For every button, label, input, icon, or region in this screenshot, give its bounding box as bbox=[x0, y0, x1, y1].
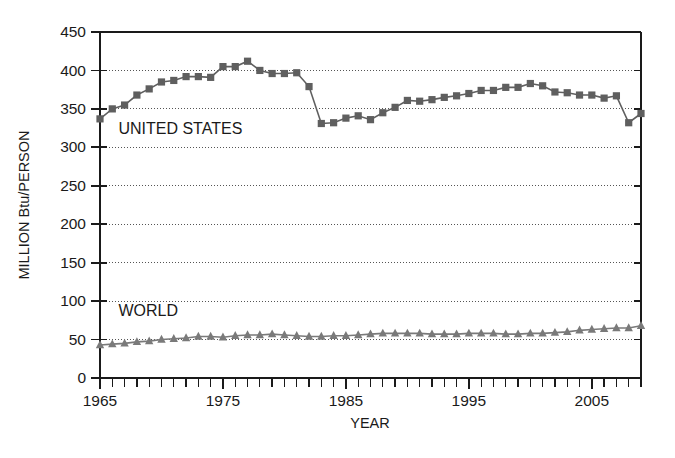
data-point-marker bbox=[478, 87, 485, 94]
y-axis-title: MILLION Btu/PERSON bbox=[16, 130, 32, 279]
data-point-marker bbox=[182, 73, 189, 80]
y-tick-label: 300 bbox=[60, 138, 86, 155]
data-point-marker bbox=[244, 58, 251, 65]
data-point-marker bbox=[133, 91, 140, 98]
y-tick-label: 200 bbox=[60, 215, 86, 232]
x-tick-label: 1995 bbox=[452, 392, 486, 409]
series-united-states bbox=[96, 58, 644, 127]
data-point-marker bbox=[539, 82, 546, 89]
data-point-marker bbox=[502, 84, 509, 91]
x-axis-ticks: 19651975198519952005 bbox=[83, 378, 641, 409]
data-point-marker bbox=[637, 110, 644, 117]
plot-frame bbox=[100, 32, 641, 378]
data-point-marker bbox=[318, 120, 325, 127]
data-point-marker bbox=[551, 88, 558, 95]
data-point-marker bbox=[527, 80, 534, 87]
energy-per-person-line-chart: 050100150200250300350400450 196519751985… bbox=[0, 0, 675, 458]
data-point-marker bbox=[564, 89, 571, 96]
data-point-marker bbox=[404, 97, 411, 104]
data-point-marker bbox=[96, 115, 103, 122]
y-tick-label: 50 bbox=[69, 331, 87, 348]
data-point-marker bbox=[428, 96, 435, 103]
data-point-marker bbox=[281, 70, 288, 77]
data-point-marker bbox=[613, 92, 620, 99]
x-axis-title: YEAR bbox=[350, 415, 390, 431]
data-point-marker bbox=[195, 73, 202, 80]
x-tick-label: 1975 bbox=[206, 392, 240, 409]
data-point-marker bbox=[330, 119, 337, 126]
data-point-marker bbox=[219, 63, 226, 70]
data-point-marker bbox=[576, 91, 583, 98]
data-point-marker bbox=[269, 70, 276, 77]
data-point-marker bbox=[232, 63, 239, 70]
data-point-marker bbox=[305, 83, 312, 90]
chart-figure: 050100150200250300350400450 196519751985… bbox=[0, 0, 675, 458]
data-point-marker bbox=[441, 94, 448, 101]
data-point-marker bbox=[601, 95, 608, 102]
data-point-marker bbox=[416, 98, 423, 105]
data-point-marker bbox=[355, 112, 362, 119]
y-tick-label: 150 bbox=[60, 254, 86, 271]
data-point-marker bbox=[342, 115, 349, 122]
data-series-layer bbox=[96, 58, 645, 349]
data-point-marker bbox=[625, 119, 632, 126]
data-point-marker bbox=[109, 105, 116, 112]
x-tick-label: 1985 bbox=[329, 392, 363, 409]
y-tick-label: 100 bbox=[60, 292, 86, 309]
data-point-marker bbox=[121, 101, 128, 108]
data-point-marker bbox=[588, 91, 595, 98]
y-tick-label: 450 bbox=[60, 23, 86, 40]
data-point-marker bbox=[268, 329, 276, 337]
data-point-marker bbox=[379, 109, 386, 116]
series-world bbox=[96, 321, 645, 348]
data-point-marker bbox=[465, 90, 472, 97]
x-tick-label: 1965 bbox=[83, 392, 117, 409]
x-tick-label: 2005 bbox=[575, 392, 609, 409]
data-point-marker bbox=[207, 74, 214, 81]
data-point-marker bbox=[367, 116, 374, 123]
data-point-marker bbox=[158, 78, 165, 85]
data-point-marker bbox=[637, 321, 645, 329]
y-tick-label: 350 bbox=[60, 100, 86, 117]
series-annotations: UNITED STATESWORLD bbox=[118, 120, 242, 318]
data-point-marker bbox=[146, 85, 153, 92]
series-label: UNITED STATES bbox=[118, 120, 242, 137]
y-tick-label: 250 bbox=[60, 177, 86, 194]
data-point-marker bbox=[490, 87, 497, 94]
data-point-marker bbox=[514, 84, 521, 91]
y-tick-label: 0 bbox=[77, 369, 86, 386]
data-point-marker bbox=[453, 92, 460, 99]
data-point-marker bbox=[256, 67, 263, 74]
data-point-marker bbox=[391, 104, 398, 111]
data-point-marker bbox=[293, 69, 300, 76]
data-point-marker bbox=[170, 77, 177, 84]
series-label: WORLD bbox=[118, 302, 178, 319]
y-tick-label: 400 bbox=[60, 62, 86, 79]
